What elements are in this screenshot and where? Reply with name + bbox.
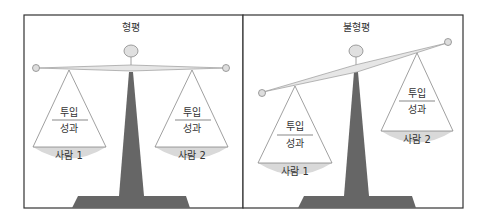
- beam-end-right: [223, 65, 230, 72]
- panel-title: 형평: [122, 22, 140, 33]
- outcomes-label: 성과: [286, 138, 304, 149]
- inputs-label: 투입: [286, 120, 304, 132]
- beam-end-right: [445, 39, 452, 46]
- beam-end-left: [33, 65, 40, 72]
- outcomes-label: 성과: [408, 104, 426, 115]
- inputs-label: 투입: [183, 106, 201, 118]
- panel-unbalanced: 불형평 투입 성과 사람 1 투입 성과 사람 2: [243, 15, 463, 208]
- person-label: 사람 1: [55, 149, 83, 161]
- inputs-label: 투입: [408, 87, 426, 99]
- beam-end-left: [259, 90, 266, 97]
- outcomes-label: 성과: [183, 123, 201, 134]
- outcomes-label: 성과: [60, 123, 78, 134]
- scale-base: [72, 196, 190, 208]
- knob-icon: [124, 45, 138, 57]
- panel-balanced: 형평 투입 성과 사람 1 투입 성과 사람 2: [24, 15, 243, 208]
- equity-diagram: 형평 투입 성과 사람 1 투입 성과 사람 2: [0, 0, 487, 223]
- knob-icon: [349, 45, 363, 57]
- person-label: 사람 1: [281, 165, 309, 177]
- person-label: 사람 2: [178, 149, 206, 161]
- scale-base: [298, 196, 416, 208]
- inputs-label: 투입: [60, 106, 78, 118]
- person-label: 사람 2: [403, 133, 431, 145]
- panel-title: 불형평: [343, 22, 370, 33]
